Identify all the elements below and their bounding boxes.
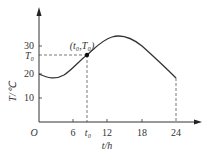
chart: 10 20 T₀ 30 T/℃ O 6 t₀ 12 18 24 t/h (t₀,… — [0, 0, 208, 166]
y-tick-label-20: 20 — [24, 68, 34, 79]
y-tick-label-T0: T₀ — [25, 50, 35, 61]
point-t0-T0 — [85, 53, 89, 57]
point-annotation: (t₀,T₀) — [70, 40, 95, 52]
temperature-curve — [39, 36, 176, 78]
x-tick-label-12: 12 — [102, 127, 112, 138]
origin-label: O — [30, 127, 37, 138]
x-tick-label-t0: t₀ — [85, 127, 92, 138]
y-axis-arrow-icon — [37, 7, 42, 16]
x-tick-label-18: 18 — [137, 127, 147, 138]
y-axis-label: T/℃ — [7, 80, 18, 101]
x-tick-label-6: 6 — [71, 127, 76, 138]
y-tick-label-10: 10 — [24, 92, 34, 103]
y-tick-label-30: 30 — [24, 40, 34, 51]
x-tick-label-24: 24 — [171, 127, 181, 138]
x-axis-label: t/h — [102, 140, 113, 151]
x-axis-arrow-icon — [194, 120, 202, 125]
